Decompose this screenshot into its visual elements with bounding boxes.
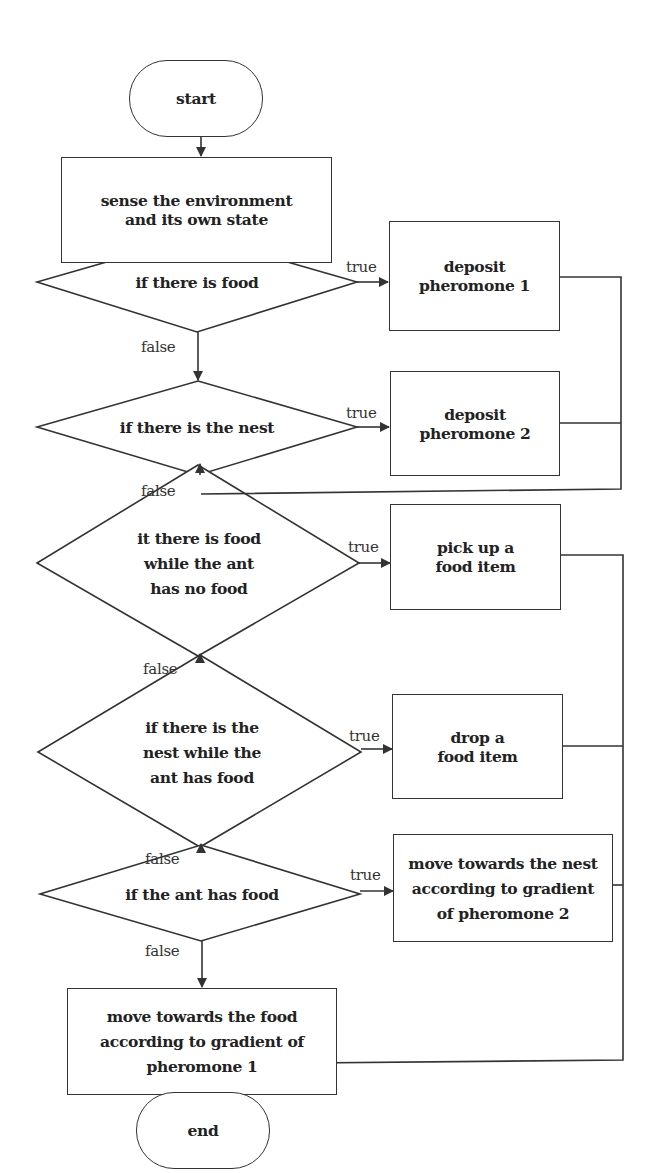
drop-food-box: drop a food item: [392, 694, 563, 799]
end-terminal: end: [136, 1092, 270, 1169]
move-food-line-2: according to gradient of: [100, 1029, 304, 1054]
false-label-2: false: [141, 482, 175, 500]
deposit1-line-2: pheromone 1: [419, 276, 530, 295]
drop-line-1: drop a: [451, 728, 505, 747]
condition-food-text: if there is food: [135, 273, 258, 292]
deposit1-line-1: deposit: [444, 257, 506, 276]
move-nest-line-3: of pheromone 2: [437, 901, 570, 926]
condition-there-is-food: if there is food: [97, 266, 297, 298]
false-label-4: false: [145, 850, 179, 868]
condition-there-is-nest: if there is the nest: [77, 411, 317, 443]
sense-line-1: sense the environment: [101, 191, 293, 210]
deposit2-line-2: pheromone 2: [419, 424, 530, 443]
condition-ant-has-food: if the ant has food: [100, 878, 304, 910]
false-label-1: false: [141, 338, 175, 356]
drop-line-2: food item: [437, 747, 517, 766]
condition4-line-3: ant has food: [150, 765, 254, 790]
move-food-line-1: move towards the food: [107, 1004, 298, 1029]
condition-nest-has-food: if there is the nest while the ant has f…: [100, 715, 304, 789]
deposit2-line-1: deposit: [444, 405, 506, 424]
condition5-text: if the ant has food: [125, 885, 278, 904]
condition4-line-1: if there is the: [145, 715, 258, 740]
condition3-line-1: it there is food: [137, 526, 261, 551]
move-nest-line-2: according to gradient: [412, 876, 594, 901]
true-label-5: true: [350, 866, 381, 884]
deposit-pheromone-1-box: deposit pheromone 1: [389, 221, 560, 331]
condition3-line-3: has no food: [150, 576, 247, 601]
false-label-3: false: [143, 660, 177, 678]
pickup-line-1: pick up a: [437, 538, 514, 557]
true-label-4: true: [349, 727, 380, 745]
true-label-3: true: [348, 538, 379, 556]
condition-food-no-food: it there is food while the ant has no fo…: [97, 526, 301, 600]
true-label-1: true: [346, 258, 377, 276]
pickup-line-2: food item: [435, 557, 515, 576]
move-towards-nest-box: move towards the nest according to gradi…: [393, 834, 613, 942]
true-label-2: true: [346, 404, 377, 422]
move-nest-line-1: move towards the nest: [408, 851, 597, 876]
condition3-line-2: while the ant: [144, 551, 254, 576]
sense-environment-box: sense the environment and its own state: [61, 157, 332, 263]
sense-line-2: and its own state: [125, 210, 268, 229]
start-terminal: start: [129, 60, 263, 137]
condition4-line-2: nest while the: [143, 740, 261, 765]
move-food-line-3: pheromone 1: [146, 1054, 257, 1079]
start-label: start: [176, 89, 216, 108]
move-towards-food-box: move towards the food according to gradi…: [67, 988, 337, 1095]
pick-up-food-box: pick up a food item: [390, 504, 561, 610]
end-label: end: [187, 1121, 218, 1140]
deposit-pheromone-2-box: deposit pheromone 2: [390, 371, 560, 476]
false-label-5: false: [145, 942, 179, 960]
condition-nest-text: if there is the nest: [120, 418, 274, 437]
